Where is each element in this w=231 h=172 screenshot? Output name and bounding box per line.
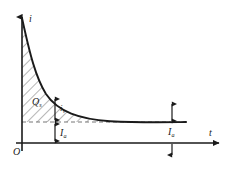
dc-current-label-left-subscript: a bbox=[63, 132, 66, 139]
diagram-canvas bbox=[0, 0, 231, 172]
hatched-charge-area bbox=[22, 18, 186, 122]
ripple-current-label: iv bbox=[60, 104, 65, 113]
charge-area-label-subscript: s bbox=[39, 101, 41, 108]
figure-container: i t O Qs iv Ia Ia bbox=[0, 0, 231, 172]
dc-current-label-left: Ia bbox=[60, 128, 67, 138]
ripple-current-label-subscript: v bbox=[63, 108, 65, 114]
origin-label: O bbox=[13, 147, 20, 157]
dc-current-label-right: Ia bbox=[168, 127, 175, 137]
charge-area-label: Qs bbox=[32, 97, 42, 107]
y-axis-label: i bbox=[29, 14, 32, 24]
dc-current-label-right-subscript: a bbox=[171, 131, 174, 138]
x-axis-label: t bbox=[209, 128, 212, 138]
